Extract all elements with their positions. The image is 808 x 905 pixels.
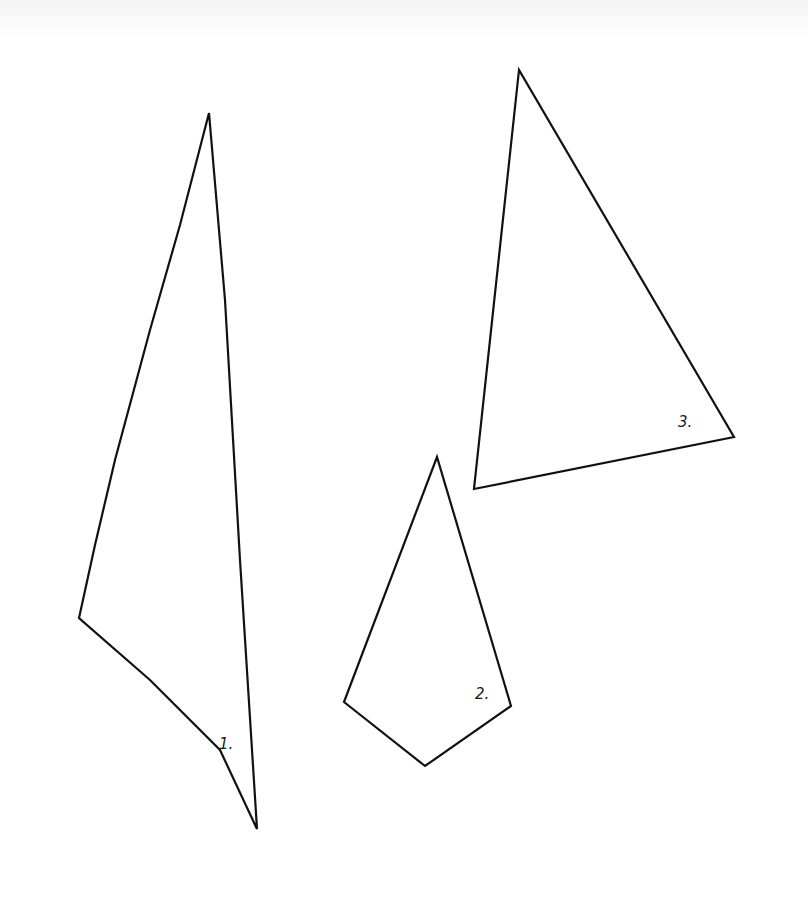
shape-3-label: 3. xyxy=(678,415,692,430)
shape-3-triangle xyxy=(474,70,734,489)
shape-2-kite xyxy=(344,457,511,766)
shape-1-label: 1. xyxy=(219,737,233,752)
drawing-canvas: 1. 2. 3. xyxy=(0,0,808,905)
shape-1-triangle xyxy=(79,113,257,829)
shapes-svg xyxy=(0,0,808,905)
shape-2-label: 2. xyxy=(475,687,489,702)
